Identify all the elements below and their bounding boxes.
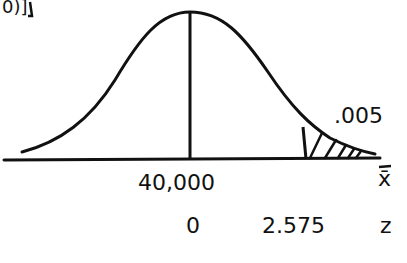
x-axis-variable: x̄ — [378, 166, 391, 191]
horizontal-axis — [4, 158, 380, 160]
z-axis-variable: z — [380, 213, 392, 238]
mean-x-value: 40,000 — [138, 170, 215, 195]
normal-curve-diagram — [0, 0, 407, 263]
critical-value-line — [303, 127, 306, 159]
title-bracket — [28, 2, 32, 16]
z-critical-value: 2.575 — [262, 213, 325, 238]
z-center-value: 0 — [186, 213, 200, 238]
tail-area-label: .005 — [334, 103, 383, 128]
title-fragment: 0)] — [2, 0, 28, 17]
shaded-tail-hatching — [310, 133, 361, 158]
